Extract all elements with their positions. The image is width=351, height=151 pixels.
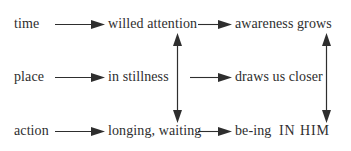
arrow-to-draws-us-closer	[190, 72, 232, 83]
node-willed-attention: willed attention	[108, 17, 197, 31]
flow-diagram: time willed attention awareness grows pl…	[0, 0, 351, 151]
node-awareness-grows: awareness grows	[235, 17, 332, 31]
arrow-right-column-link	[320, 33, 333, 123]
node-time: time	[14, 17, 39, 31]
node-place: place	[14, 70, 44, 84]
arrow-willed-attention-to-awareness-grows	[198, 19, 232, 30]
arrow-middle-column-link	[171, 33, 184, 123]
node-draws-us-closer: draws us closer	[235, 70, 323, 84]
node-action: action	[14, 124, 49, 138]
arrow-place-to-in-stillness	[55, 72, 105, 83]
node-in-stillness: in stillness	[108, 70, 169, 84]
arrow-time-to-willed-attention	[55, 19, 105, 30]
node-longing-waiting: longing, waiting	[108, 124, 201, 138]
node-in-him: IN HIM	[279, 124, 330, 138]
node-be-ing: be-ing	[235, 124, 271, 138]
arrow-longing-waiting-to-be-ing-in-him	[198, 126, 232, 137]
arrow-action-to-longing-waiting	[55, 126, 105, 137]
